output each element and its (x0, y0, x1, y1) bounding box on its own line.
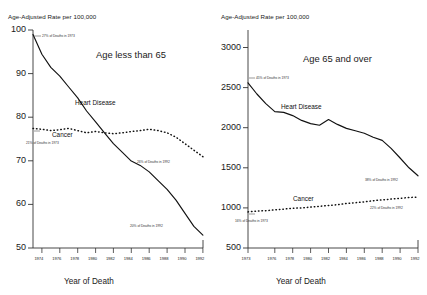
x-tick-label-1982: 1982 (106, 256, 115, 261)
y-tick-label-100: 100 (0, 24, 26, 34)
y-tick-label-80: 80 (4, 111, 26, 121)
y-tick-label-1000: 1000 (213, 202, 241, 212)
annotation-cancer-start: 21% of Deaths in 1973 (26, 141, 59, 145)
x-tick-label-1980: 1980 (88, 256, 97, 261)
series-label-heart-disease: Heart Disease (281, 103, 322, 110)
series-label-cancer: Cancer (293, 195, 314, 202)
x-tick-label-1990: 1990 (393, 256, 402, 261)
x-tick-marks (42, 248, 203, 253)
x-tick-label-1978: 1978 (285, 256, 294, 261)
annotation-heart-start: 45% of Deaths in 1973 (256, 76, 289, 80)
annotation-cancer-end: 26% of Deaths in 1992 (137, 160, 170, 164)
x-tick-label-1980: 1980 (303, 256, 312, 261)
x-tick-label-1992: 1992 (411, 256, 420, 261)
x-tick-label-1986: 1986 (357, 256, 366, 261)
annotation-heart-start: 27% of Deaths in 1973 (42, 34, 75, 38)
x-tick-label-1974: 1974 (34, 256, 43, 261)
x-tick-label-1986: 1986 (142, 256, 151, 261)
x-axis-label: Year of Death (276, 277, 326, 286)
x-tick-label-1990: 1990 (178, 256, 187, 261)
y-tick-label-70: 70 (4, 155, 26, 165)
x-axis-label: Year of Death (64, 277, 114, 286)
x-tick-label-1984: 1984 (124, 256, 133, 261)
y-tick-label-500: 500 (213, 242, 241, 252)
x-tick-label-1976: 1976 (52, 256, 61, 261)
x-tick-label-1973: 1973 (242, 256, 251, 261)
y-tick-label-1500: 1500 (213, 162, 241, 172)
x-tick-label-1976: 1976 (267, 256, 276, 261)
y-tick-label-2000: 2000 (213, 122, 241, 132)
y-tick-label-3000: 3000 (213, 42, 241, 52)
annotation-heart-end: 38% of Deaths in 1992 (365, 178, 398, 182)
chart-panel-65-and-over: Age-Adjusted Rate per 100,000 Age 65 and… (213, 0, 426, 295)
annotation-cancer-end: 22% of Deaths in 1992 (370, 206, 403, 210)
annotation-cancer-start: 16% of Deaths in 1973 (235, 219, 268, 223)
y-tick-label-50: 50 (4, 242, 26, 252)
x-tick-label-1992: 1992 (195, 256, 204, 261)
x-tick-label-1988: 1988 (160, 256, 169, 261)
plot-area-65-and-over (213, 0, 426, 295)
y-tick-label-60: 60 (4, 198, 26, 208)
series-line-heart-disease (248, 83, 418, 176)
x-tick-marks (248, 248, 418, 253)
y-tick-label-90: 90 (4, 68, 26, 78)
x-tick-label-1978: 1978 (70, 256, 79, 261)
x-tick-label-1982: 1982 (321, 256, 330, 261)
series-label-cancer: Cancer (52, 131, 73, 138)
x-tick-label-1988: 1988 (375, 256, 384, 261)
chart-panel-under-65: Age-Adjusted Rate per 100,000 Age less t… (0, 0, 213, 295)
x-tick-label-1984: 1984 (339, 256, 348, 261)
figure-root: Age-Adjusted Rate per 100,000 Age less t… (0, 0, 427, 295)
series-label-heart-disease: Heart Disease (75, 99, 116, 106)
annotation-heart-end: 20% of Deaths in 1992 (130, 224, 163, 228)
y-tick-label-2500: 2500 (213, 82, 241, 92)
plot-area-under-65 (0, 0, 213, 295)
